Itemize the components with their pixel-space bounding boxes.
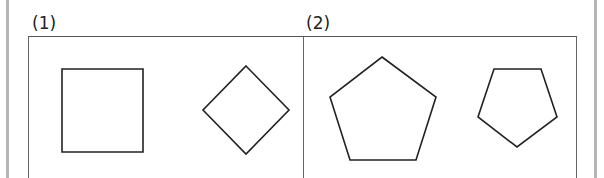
diamond-shape: [203, 66, 289, 154]
shapes-canvas: [0, 0, 604, 178]
large-pentagon-shape: [330, 57, 436, 160]
square-shape: [62, 69, 143, 152]
small-pentagon-shape: [478, 69, 557, 147]
